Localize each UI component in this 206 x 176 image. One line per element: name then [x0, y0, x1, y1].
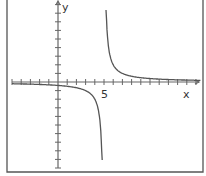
curve-left-branch — [12, 84, 102, 160]
tick-marks — [12, 5, 196, 168]
x-tick-label-5: 5 — [101, 88, 108, 101]
graph-frame — [7, 0, 203, 172]
graph-canvas: y x 5 — [0, 0, 206, 176]
curve-right-branch — [106, 10, 200, 80]
y-axis-label: y — [62, 1, 69, 14]
curves — [12, 10, 200, 160]
x-axis-label: x — [183, 88, 190, 101]
